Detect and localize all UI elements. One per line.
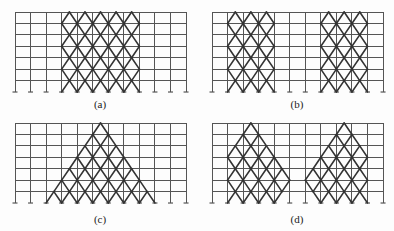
- diagonal-brace: [54, 192, 62, 203]
- diagonal-brace: [124, 157, 132, 168]
- diagonal-brace: [46, 192, 54, 203]
- diagonal-brace: [228, 46, 236, 57]
- diagonal-brace: [85, 81, 93, 92]
- diagonal-brace: [116, 146, 124, 157]
- diagonal-brace: [259, 169, 267, 180]
- diagonal-brace: [329, 81, 337, 92]
- diagonal-brace: [93, 58, 101, 69]
- diagonal-brace: [228, 23, 236, 34]
- diagonal-brace: [321, 23, 329, 34]
- diagonal-brace: [116, 58, 124, 69]
- diagonal-brace: [101, 46, 109, 57]
- diagonal-brace: [85, 180, 93, 191]
- diagonal-brace: [132, 169, 140, 180]
- diagonal-brace: [235, 12, 243, 23]
- diagonal-brace: [329, 35, 337, 46]
- diagonal-brace: [243, 35, 251, 46]
- diagonal-brace: [85, 157, 93, 168]
- diagonal-brace: [62, 35, 70, 46]
- diagonal-brace: [235, 46, 243, 57]
- diagonal-brace: [101, 58, 109, 69]
- diagonal-brace: [259, 192, 267, 203]
- diagonal-brace: [360, 35, 368, 46]
- diagonal-brace: [266, 146, 274, 157]
- diagonal-brace: [108, 58, 116, 69]
- diagonal-brace: [108, 146, 116, 157]
- diagonal-brace: [69, 12, 77, 23]
- diagonal-brace: [313, 180, 321, 191]
- diagonal-brace: [62, 12, 70, 23]
- diagonal-brace: [243, 69, 251, 80]
- diagonal-brace: [132, 23, 140, 34]
- diagonal-brace: [77, 23, 85, 34]
- diagonal-brace: [321, 58, 329, 69]
- diagonal-brace: [116, 157, 124, 168]
- diagonal-brace: [259, 146, 267, 157]
- diagonal-brace: [352, 35, 360, 46]
- diagonal-brace: [243, 81, 251, 92]
- diagonal-brace: [108, 134, 116, 145]
- diagonal-brace: [235, 146, 243, 157]
- diagonal-brace: [77, 46, 85, 57]
- diagonal-brace: [243, 157, 251, 168]
- diagonal-brace: [228, 157, 236, 168]
- diagonal-brace: [124, 180, 132, 191]
- diagonal-brace: [93, 46, 101, 57]
- diagonal-brace: [139, 180, 147, 191]
- diagonal-brace: [85, 35, 93, 46]
- diagonal-brace: [259, 46, 267, 57]
- diagonal-brace: [274, 157, 282, 168]
- diagonal-brace: [93, 123, 101, 134]
- diagonal-brace: [266, 23, 274, 34]
- diagonal-brace: [344, 180, 352, 191]
- diagonal-brace: [352, 157, 360, 168]
- diagonal-brace: [77, 35, 85, 46]
- diagonal-brace: [235, 134, 243, 145]
- diagonal-brace: [124, 169, 132, 180]
- diagonal-brace: [132, 81, 140, 92]
- diagonal-brace: [243, 180, 251, 191]
- diagonal-brace: [69, 81, 77, 92]
- diagonal-brace: [101, 69, 109, 80]
- diagonal-brace: [108, 157, 116, 168]
- diagonal-brace: [93, 35, 101, 46]
- panel-c-frame: [13, 123, 189, 203]
- diagonal-brace: [251, 81, 259, 92]
- diagonal-brace: [352, 58, 360, 69]
- diagonal-brace: [344, 12, 352, 23]
- diagonal-brace: [116, 169, 124, 180]
- diagonal-brace: [360, 58, 368, 69]
- diagonal-brace: [360, 157, 368, 168]
- diagonal-brace: [93, 134, 101, 145]
- diagonal-brace: [77, 180, 85, 191]
- diagonal-brace: [124, 23, 132, 34]
- diagonal-brace: [69, 23, 77, 34]
- diagonal-brace: [124, 192, 132, 203]
- diagonal-brace: [116, 23, 124, 34]
- diagonal-brace: [69, 46, 77, 57]
- panel-label-b: (b): [277, 98, 317, 110]
- diagonal-brace: [344, 192, 352, 203]
- diagonal-brace: [228, 69, 236, 80]
- diagonal-brace: [266, 35, 274, 46]
- diagonal-brace: [360, 180, 368, 191]
- diagonal-brace: [352, 146, 360, 157]
- diagonal-brace: [352, 134, 360, 145]
- diagonal-brace: [108, 23, 116, 34]
- panel-b-frame: [210, 12, 386, 92]
- diagonal-brace: [124, 58, 132, 69]
- diagonal-brace: [321, 46, 329, 57]
- diagonal-brace: [251, 157, 259, 168]
- diagonal-brace: [132, 180, 140, 191]
- diagonal-brace: [266, 157, 274, 168]
- diagonal-brace: [85, 69, 93, 80]
- diagonal-brace: [101, 23, 109, 34]
- diagonal-brace: [251, 169, 259, 180]
- diagonal-brace: [116, 46, 124, 57]
- diagonal-brace: [344, 169, 352, 180]
- diagonal-brace: [266, 58, 274, 69]
- diagonal-brace: [85, 169, 93, 180]
- diagonal-brace: [116, 69, 124, 80]
- diagonal-brace: [321, 180, 329, 191]
- diagonal-brace: [77, 169, 85, 180]
